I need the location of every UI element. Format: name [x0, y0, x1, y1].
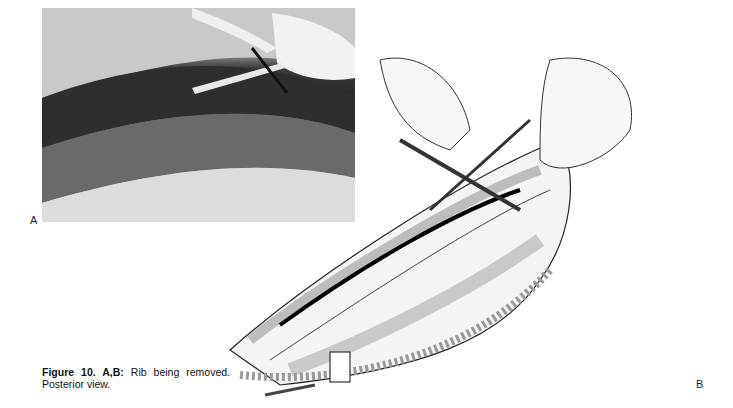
panel-label-b: B: [696, 378, 703, 390]
figure-caption: Figure 10. A,B: Rib being removed. Poste…: [42, 366, 230, 390]
panel-label-a: A: [30, 214, 37, 226]
rib-removal-drawing: [220, 40, 733, 400]
illustration-panel-b: [220, 40, 733, 400]
caption-prefix: Figure 10. A,B:: [42, 366, 124, 378]
